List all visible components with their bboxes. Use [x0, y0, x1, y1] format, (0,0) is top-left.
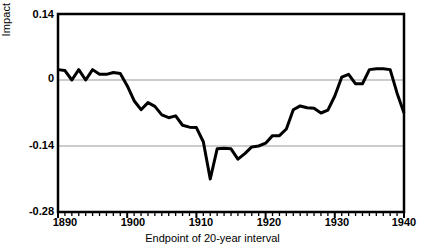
chart-figure: Impact at t - 3 0.14 0 -0.14 -0.28 1890 … [0, 0, 425, 250]
data-series-line [58, 69, 404, 179]
gridlines [58, 80, 404, 146]
plot-frame [58, 14, 404, 212]
plot-canvas [0, 0, 425, 250]
